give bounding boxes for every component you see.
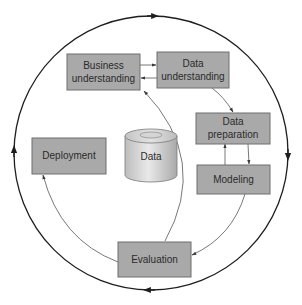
arrow-evaluation-to-deployment	[43, 175, 118, 262]
phase-data-preparation[interactable]: Data preparation	[196, 113, 270, 144]
phase-label-line2: preparation	[208, 129, 259, 140]
crisp-dm-diagram: Data Business understanding Data underst…	[0, 0, 302, 305]
phase-label: Deployment	[42, 150, 96, 161]
arrow-modeling-to-evaluation	[192, 194, 245, 255]
phase-label: Evaluation	[131, 254, 178, 265]
phase-label-line1: Data	[182, 58, 204, 69]
phase-label-line1: Data	[222, 116, 244, 127]
phase-data-understanding[interactable]: Data understanding	[157, 52, 229, 88]
phase-label-line1: Business	[83, 60, 124, 71]
phase-evaluation[interactable]: Evaluation	[118, 242, 191, 277]
arrow-preparation-to-modeling	[248, 144, 249, 164]
arrow-data-understanding-to-preparation	[212, 88, 233, 112]
phase-label-line2: understanding	[161, 71, 224, 82]
data-cylinder-label: Data	[140, 151, 162, 162]
phase-label-line2: understanding	[72, 73, 135, 84]
phase-modeling[interactable]: Modeling	[197, 165, 270, 194]
phase-deployment[interactable]: Deployment	[32, 138, 106, 174]
data-cylinder: Data	[125, 129, 177, 182]
phase-label: Modeling	[213, 174, 254, 185]
phase-business-understanding[interactable]: Business understanding	[67, 54, 140, 90]
